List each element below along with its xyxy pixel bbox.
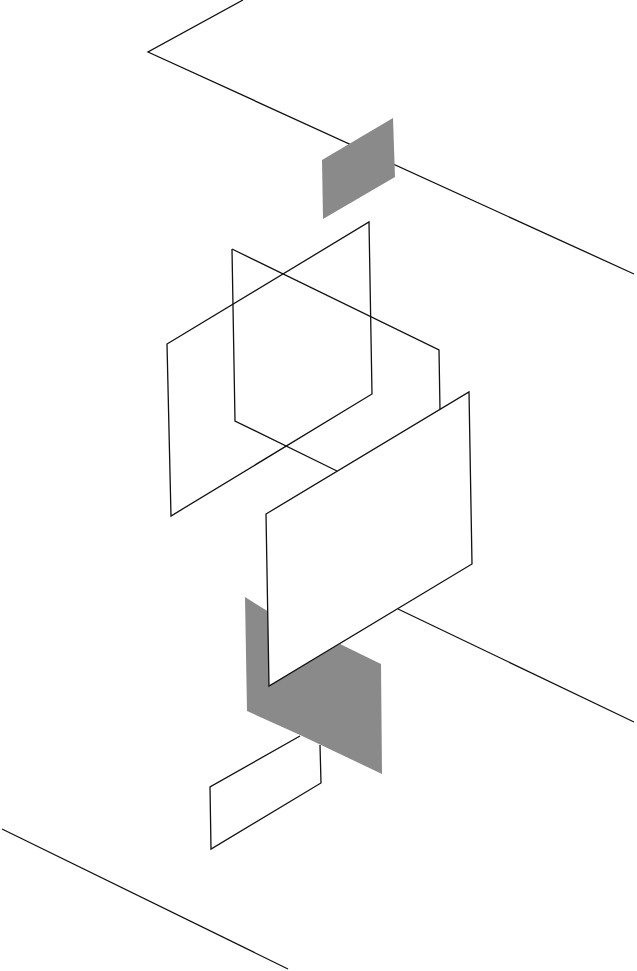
middle-plane bbox=[232, 249, 440, 410]
small-box bbox=[210, 736, 321, 849]
middle-plane-lower bbox=[232, 249, 337, 471]
right-diagonal-line bbox=[398, 609, 634, 722]
front-plane bbox=[266, 392, 472, 686]
diagram-canvas bbox=[0, 0, 637, 971]
bottom-diagonal-line bbox=[2, 829, 288, 969]
top-gray-plane bbox=[322, 118, 395, 219]
